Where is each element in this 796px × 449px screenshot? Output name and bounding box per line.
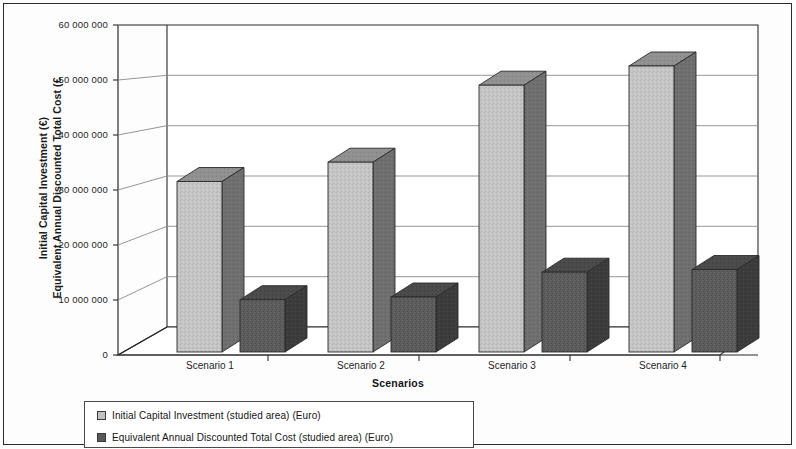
x-tick-label-scenario-2: Scenario 2 — [301, 360, 421, 371]
x-axis-title: Scenarios — [0, 377, 796, 389]
bar-scenario-4-equivalent-annual-cost — [692, 256, 759, 353]
bar-scenario-4-initial-capital-investment — [629, 52, 696, 352]
y-tick-label-40000000: 40 000 000 — [38, 129, 108, 140]
bar-scenario-1-initial-capital-investment — [177, 168, 244, 353]
legend-label-series-1: Initial Capital Investment (studied area… — [112, 410, 321, 421]
chart-page: Initial Capital Investment (€) Equivalen… — [0, 0, 796, 449]
chart-legend: Initial Capital Investment (studied area… — [84, 401, 474, 448]
y-tick-label-10000000: 10 000 000 — [38, 294, 108, 305]
y-tick-label-60000000: 60 000 000 — [38, 19, 108, 30]
bar-scenario-2-equivalent-annual-cost — [391, 283, 458, 352]
legend-swatch-icon-series-1 — [97, 411, 106, 420]
x-tick-label-scenario-1: Scenario 1 — [150, 360, 270, 371]
bar-scenario-3-initial-capital-investment — [479, 71, 546, 352]
legend-swatch-icon-series-2 — [97, 433, 106, 442]
x-tick-label-scenario-4: Scenario 4 — [603, 360, 723, 371]
bar-scenario-1-equivalent-annual-cost — [240, 286, 307, 352]
bar-scenario-2-initial-capital-investment — [328, 148, 395, 352]
legend-item-equivalent-annual-cost[interactable]: Equivalent Annual Discounted Total Cost … — [97, 432, 393, 443]
y-tick-label-0: 0 — [38, 349, 108, 360]
y-tick-label-20000000: 20 000 000 — [38, 239, 108, 250]
legend-label-series-2: Equivalent Annual Discounted Total Cost … — [112, 432, 393, 443]
chart-3d-column: Initial Capital Investment (€) Equivalen… — [0, 0, 796, 449]
legend-item-initial-capital-investment[interactable]: Initial Capital Investment (studied area… — [97, 410, 321, 421]
y-tick-label-50000000: 50 000 000 — [38, 74, 108, 85]
y-tick-label-30000000: 30 000 000 — [38, 184, 108, 195]
x-tick-label-scenario-3: Scenario 3 — [452, 360, 572, 371]
y-axis-ticks — [113, 25, 118, 355]
bar-scenario-3-equivalent-annual-cost — [542, 258, 609, 352]
